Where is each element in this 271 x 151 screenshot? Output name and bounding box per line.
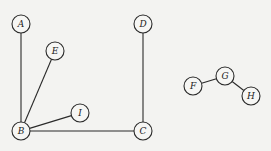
node-f: F [184, 77, 202, 95]
node-label: E [51, 46, 59, 56]
node-label: I [77, 108, 82, 118]
edge-f-g [202, 79, 217, 84]
node-label: G [221, 71, 228, 81]
node-g: G [216, 67, 234, 85]
graph-diagram: AEDBICFGH [0, 0, 271, 151]
edge-e-b [25, 59, 52, 122]
node-i: I [71, 104, 89, 122]
node-h: H [242, 87, 260, 105]
node-a: A [12, 15, 30, 33]
node-label: F [189, 81, 197, 91]
node-b: B [12, 122, 30, 140]
node-label: C [140, 126, 147, 136]
node-label: D [138, 19, 146, 29]
node-label: B [17, 126, 25, 136]
node-c: C [134, 122, 152, 140]
node-d: D [134, 15, 152, 33]
edge-g-h [232, 81, 244, 90]
nodes-layer: AEDBICFGH [12, 15, 260, 140]
node-label: A [17, 19, 25, 29]
node-e: E [46, 42, 64, 60]
edge-i-b [30, 116, 72, 129]
node-label: H [246, 91, 255, 101]
